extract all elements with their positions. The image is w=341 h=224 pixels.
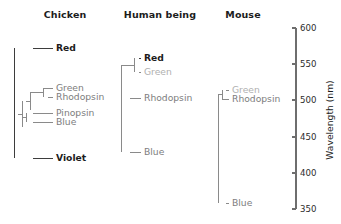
panel-title-human: Human being (124, 9, 196, 20)
axis-tick-label-350: 350 (300, 204, 316, 214)
leaf-label-chicken-red: Red (56, 42, 76, 53)
axis-tick-label-400: 400 (300, 168, 316, 178)
leaf-label-human-green: Green (144, 66, 172, 77)
figure-background (0, 0, 341, 224)
axis-tick-label-500: 500 (300, 95, 316, 105)
leaf-label-human-rhodopsin: Rhodopsin (144, 92, 192, 103)
leaf-label-chicken-blue: Blue (56, 116, 77, 127)
pigment-gene-tree-figure: ChickenRedGreenRhodopsinPinopsinBlueViol… (0, 0, 341, 224)
axis-title: Wavelength (nm) (324, 80, 335, 159)
axis-tick-label-450: 450 (300, 132, 316, 142)
leaf-label-mouse-rhodopsin: Rhodopsin (232, 93, 280, 104)
leaf-label-mouse-blue: Blue (232, 197, 253, 208)
leaf-label-human-blue: Blue (144, 146, 165, 157)
leaf-label-chicken-rhodopsin: Rhodopsin (56, 91, 104, 102)
leaf-label-human-red: Red (144, 52, 164, 63)
panel-title-chicken: Chicken (44, 9, 87, 20)
axis-tick-label-550: 550 (300, 59, 316, 69)
axis-tick-label-600: 600 (300, 23, 316, 33)
panel-title-mouse: Mouse (225, 9, 260, 20)
leaf-label-chicken-violet: Violet (56, 152, 87, 163)
